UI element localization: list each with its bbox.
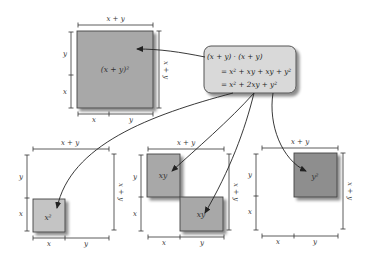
equation-line-1: (x + y) · (x + y): [207, 52, 263, 61]
top-square-group: (x + y)² x + y x + y y x x y: [62, 15, 170, 124]
x-squared-left-dim-y: y: [18, 173, 24, 181]
x-squared-top-dim: x + y: [61, 139, 80, 147]
top-square-area-label: (x + y)²: [101, 65, 129, 74]
y-squared-bottom-dim-x: x: [276, 238, 280, 246]
equation-line-3: = x² + 2xy + y²: [221, 80, 277, 89]
y-squared-bottom-dim-y: y: [312, 238, 318, 246]
xy-area-label-bottom: xy: [197, 210, 206, 219]
y-squared-left-dim-x: x: [248, 208, 252, 216]
panel-two-xy: xy xy x + y x + y y x x y: [132, 139, 240, 247]
xy-area-label-top: xy: [159, 171, 168, 180]
panel-y-squared: y² x + y x + y y x x y: [247, 138, 354, 246]
two-xy-right-dim: x + y: [232, 183, 240, 202]
top-square-right-dim: x + y: [162, 61, 170, 80]
arrow-to-x-squared: [57, 93, 233, 208]
x-squared-bottom-dim-y: y: [83, 240, 89, 248]
two-xy-left-dim-y: y: [132, 173, 138, 181]
arrow-to-xy-bottom: [205, 93, 254, 213]
two-xy-top-dim: x + y: [177, 139, 196, 147]
y-squared-right-dim: x + y: [346, 182, 354, 201]
two-xy-left-dim-x: x: [133, 210, 137, 218]
top-square-left-dim-x: x: [63, 88, 67, 96]
y-squared-top-dim: x + y: [291, 138, 310, 146]
arrow-to-xy-top: [172, 93, 254, 171]
equation-line-2: = x² + xy + xy + y²: [221, 67, 291, 76]
panel-x-squared: x² x + y x + y y x x y: [18, 139, 125, 248]
x-squared-right-dim: x + y: [117, 183, 125, 202]
x-squared-bottom-dim-x: x: [47, 240, 51, 248]
top-square-bottom-dim-x: x: [92, 116, 96, 124]
binomial-square-diagram: (x + y)² x + y x + y y x x y (x + y) · (…: [0, 0, 370, 260]
two-xy-bottom-dim-x: x: [162, 239, 166, 247]
top-square-top-dim: x + y: [106, 15, 125, 23]
y-squared-left-dim-y: y: [247, 171, 253, 179]
top-square-left-dim-y: y: [62, 50, 68, 58]
two-xy-bottom-dim-y: y: [199, 239, 205, 247]
x-squared-area-label: x²: [44, 213, 51, 222]
y-squared-area-label: y²: [310, 172, 318, 181]
top-square-bottom-dim-y: y: [128, 116, 134, 124]
equation-box: (x + y) · (x + y) = x² + xy + xy + y² = …: [204, 46, 296, 93]
x-squared-left-dim-x: x: [19, 210, 23, 218]
